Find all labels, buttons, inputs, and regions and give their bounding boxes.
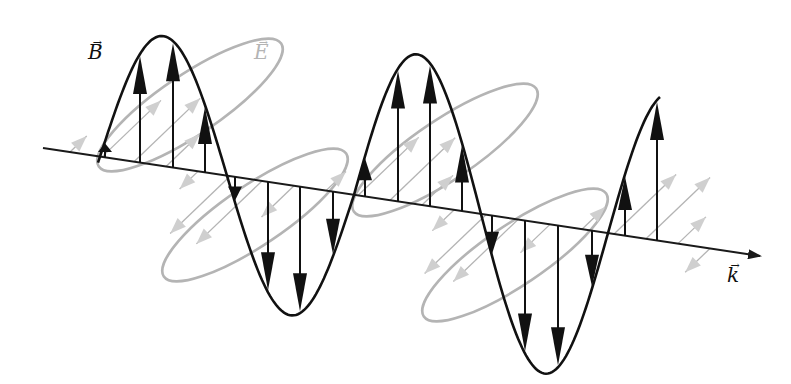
electric-field-label: →E <box>254 42 269 62</box>
electric-vector-arrow <box>432 210 454 231</box>
magnetic-vector-arrow <box>485 216 499 254</box>
magnetic-field-wave <box>98 36 664 374</box>
electric-vector-arrow <box>180 171 198 189</box>
magnetic-vector-arrow <box>650 102 664 240</box>
magnetic-field-label: →B <box>88 42 103 62</box>
electric-vector-arrow <box>685 248 710 272</box>
magnetic-vector-arrow <box>391 71 405 202</box>
magnetic-vector-arrow <box>455 145 469 211</box>
electric-vector-arrow <box>70 136 87 152</box>
wave-vector-label: →k <box>727 265 739 285</box>
electric-vector-arrow <box>422 175 453 205</box>
magnetic-vector-arrow <box>261 182 275 290</box>
em-wave-diagram <box>0 0 791 384</box>
axis-line <box>43 148 760 256</box>
electric-vector-arrow <box>646 177 710 238</box>
electric-vector-arrow <box>326 171 346 190</box>
electric-vector-arrow <box>262 186 294 217</box>
electric-vector-arrow <box>102 100 161 156</box>
magnetic-vector-arrow <box>551 226 565 366</box>
magnetic-vector-arrow <box>618 176 632 235</box>
electric-vector-arrow <box>170 176 230 233</box>
magnetic-vector-arrow <box>585 231 599 287</box>
propagation-axis <box>43 148 760 256</box>
magnetic-curve <box>98 36 660 374</box>
magnetic-vector-arrow <box>358 158 372 196</box>
magnetic-vector-arrow <box>423 65 437 206</box>
electric-field-wave <box>70 19 710 342</box>
magnetic-vector-arrow <box>293 187 307 311</box>
electric-vector-arrow <box>678 217 706 244</box>
